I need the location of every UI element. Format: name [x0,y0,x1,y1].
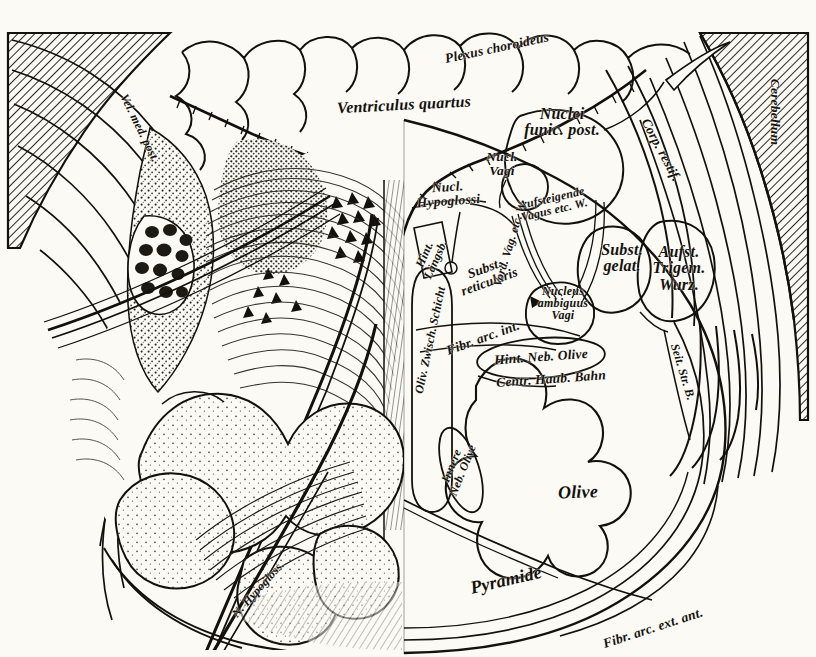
anatomical-drawing [0,0,816,657]
medulla-oblongata-figure: Plexus choroideusVentriculus quartusVel.… [0,0,816,657]
